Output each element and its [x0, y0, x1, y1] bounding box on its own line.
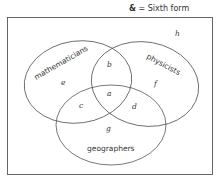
- region-g: g: [106, 124, 111, 133]
- region-f: f: [153, 79, 158, 88]
- set-label-geographers: geographers: [87, 144, 135, 153]
- region-c: c: [79, 101, 84, 110]
- region-d: d: [132, 102, 137, 111]
- region-a: a: [107, 89, 111, 98]
- region-h: h: [175, 29, 180, 38]
- region-b: b: [107, 60, 112, 69]
- venn-diagram: mathematicians physicists geographers b …: [0, 0, 220, 186]
- physicists-ellipse: [85, 33, 206, 134]
- set-label-physicists: physicists: [145, 52, 182, 77]
- set-label-mathematicians: mathematicians: [33, 44, 90, 82]
- region-e: e: [61, 78, 66, 87]
